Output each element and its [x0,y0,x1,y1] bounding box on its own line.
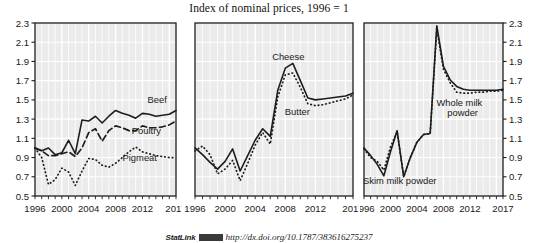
page-title: Index of nominal prices, 1996 = 1 [0,2,538,14]
y-tick-label: 0.7 [16,171,29,182]
x-tick-label: 2017 [342,203,359,214]
x-tick-label: 2008 [433,203,454,214]
y-tick-label: 2.3 [16,18,29,29]
y-tick-label: 1.9 [509,56,522,67]
y-tick-label: 1.7 [509,75,522,86]
y-tick-label: 1.3 [509,114,522,125]
plot-area-dairy: 199620002004200820122017CheeseButter [183,18,359,223]
x-tick-label: 2008 [105,203,126,214]
y-tick-label: 0.9 [16,152,29,163]
x-tick-label: 2012 [459,203,480,214]
series-label: Beef [148,94,168,105]
statlink-url[interactable]: http://dx.doi.org/10.1787/383616275237 [226,232,373,242]
figure-root: Index of nominal prices, 1996 = 1 0.50.7… [0,0,538,243]
series-label: Butter [285,106,310,117]
chart-panel-group: 0.50.70.91.11.31.51.71.92.12.31996200020… [0,18,538,223]
statlink-footer: StatLinkhttp://dx.doi.org/10.1787/383616… [0,232,538,242]
series-label: Poultry [132,125,161,136]
x-tick-label: 2004 [245,203,267,214]
statlink-barcode-icon [199,234,223,241]
y-tick-label: 0.9 [509,152,522,163]
x-tick-label: 2000 [51,203,72,214]
series-label: powder [447,107,478,118]
y-tick-label: 0.7 [509,171,522,182]
x-tick-label: 2000 [380,203,401,214]
x-tick-label: 1996 [360,203,375,214]
x-tick-label: 1996 [184,203,205,214]
x-tick-label: 2004 [406,203,428,214]
statlink-label: StatLink [166,233,196,242]
x-tick-label: 2004 [78,203,100,214]
y-tick-label: 2.1 [16,37,29,48]
series-label: Skim milk powder [363,175,436,186]
y-tick-label: 1.5 [509,94,522,105]
series-label: Cheese [272,51,304,62]
y-tick-label: 1.7 [16,75,29,86]
chart-panel-dairy: 199620002004200820122017CheeseButter [183,18,359,223]
y-tick-label: 0.5 [509,191,522,202]
x-tick-label: 2017 [492,203,513,214]
x-tick-label: 2012 [132,203,153,214]
x-tick-label: 2012 [305,203,326,214]
y-tick-label: 1.5 [16,94,29,105]
y-tick-label: 2.3 [509,18,522,29]
x-tick-label: 2000 [214,203,235,214]
y-tick-label: 1.1 [16,133,29,144]
chart-panel-milk-powder: 0.50.70.91.11.31.51.71.92.12.31996200020… [360,18,536,223]
y-tick-label: 1.1 [509,133,522,144]
y-tick-label: 1.9 [16,56,29,67]
y-tick-label: 2.1 [509,37,522,48]
plot-area-meat: 0.50.70.91.11.31.51.71.92.12.31996200020… [2,18,182,223]
x-tick-label: 2017 [165,203,182,214]
y-tick-label: 0.5 [16,191,29,202]
chart-panel-meat: 0.50.70.91.11.31.51.71.92.12.31996200020… [2,18,182,223]
series-label: Pigmeat [123,152,158,163]
x-tick-label: 2008 [275,203,296,214]
plot-area-milk-powder: 0.50.70.91.11.31.51.71.92.12.31996200020… [360,18,536,223]
x-tick-label: 1996 [24,203,45,214]
series-label: Whole milk [436,97,482,108]
y-tick-label: 1.3 [16,114,29,125]
